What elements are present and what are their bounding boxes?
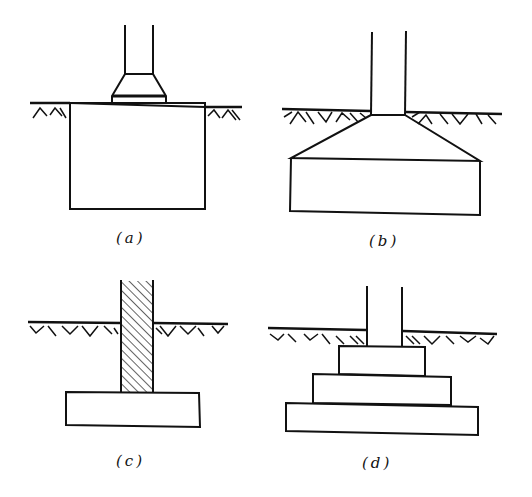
panel-c: [28, 280, 228, 427]
panel-label-b: (b): [369, 232, 399, 250]
panel-label-d: (d): [362, 454, 392, 472]
panel-d: [268, 286, 497, 435]
panel-label-a: (a): [116, 229, 146, 247]
soil-hatch-d: [270, 334, 494, 344]
panel-label-c: (c): [116, 452, 145, 470]
soil-hatch-a: [33, 108, 240, 120]
panel-a: [30, 25, 242, 209]
footing-diagram: [0, 0, 532, 497]
panel-b: [282, 31, 502, 215]
